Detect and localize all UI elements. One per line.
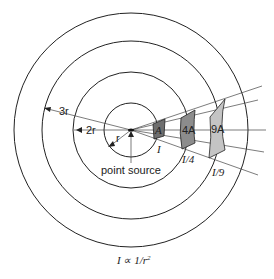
- label-intensity-I9: I/9: [211, 166, 225, 178]
- label-point-source: point source: [101, 164, 161, 176]
- label-intensity-I4: I/4: [181, 153, 195, 165]
- label-2r: 2r: [86, 124, 96, 136]
- formula-exponent: 2: [147, 254, 151, 262]
- formula-label: I ∝ 1/r2: [116, 254, 151, 266]
- label-intensity-I: I: [156, 143, 162, 155]
- label-area-4A: 4A: [182, 124, 196, 136]
- inverse-square-diagram: 3r 2r r point source A 4A 9A I I/4 I/9 I…: [0, 0, 274, 279]
- label-area-A: A: [154, 124, 162, 136]
- label-area-9A: 9A: [211, 123, 225, 135]
- point-source-dot: [128, 129, 134, 132]
- label-r: r: [116, 132, 120, 144]
- label-3r: 3r: [59, 105, 69, 117]
